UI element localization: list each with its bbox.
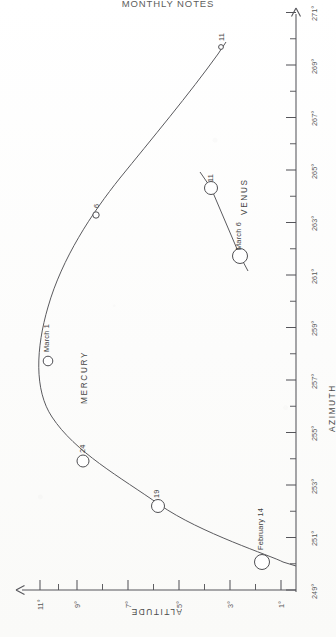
point-label-mercury-24: 24 [78, 444, 87, 453]
marker-mercury-6 [93, 212, 99, 218]
azimuth-tick-253: 253° [310, 479, 319, 494]
marker-mercury-march-1 [43, 356, 53, 366]
azimuth-tick-267: 267° [310, 111, 319, 126]
point-label-mercury-march-1: March 1 [42, 324, 51, 352]
marker-venus-march-6 [233, 249, 248, 264]
azimuth-tick-257: 257° [310, 374, 319, 389]
azimuth-tick-269: 269° [310, 59, 319, 74]
point-label-mercury-19: 19 [152, 489, 161, 498]
point-label-mercury-february-14: February 14 [256, 508, 265, 550]
plot-canvas [0, 0, 336, 637]
point-label-venus-march-6: March 6 [234, 222, 243, 250]
point-label-venus-11: 11 [206, 174, 215, 182]
marker-mercury-19 [152, 500, 165, 513]
series-label-mercury: MERCURY [80, 351, 89, 404]
azimuth-axis-title: AZIMUTH [327, 384, 336, 432]
mercury-track [39, 42, 296, 566]
altitude-axis [16, 580, 296, 595]
marker-mercury-11 [219, 45, 224, 50]
azimuth-tick-249: 249° [310, 584, 319, 599]
azimuth-tick-261: 261° [310, 269, 319, 284]
mercury-curve [39, 42, 283, 562]
azimuth-tick-263: 263° [310, 216, 319, 231]
altitude-tick-11: 11° [36, 599, 45, 610]
point-label-mercury-11: 11 [217, 33, 226, 41]
series-label-venus: VENUS [240, 178, 249, 215]
azimuth-tick-271: 271° [310, 6, 319, 21]
marker-venus-11 [205, 182, 218, 195]
altitude-tick-3: 3° [226, 601, 235, 608]
altitude-axis-title: ALTITUDE [130, 607, 182, 617]
altitude-tick-1: 1° [277, 601, 286, 608]
azimuth-tick-265: 265° [310, 164, 319, 179]
point-label-mercury-6: 6 [92, 204, 101, 208]
marker-mercury-24 [77, 455, 89, 467]
azimuth-axis [286, 8, 301, 592]
azimuth-tick-255: 255° [310, 426, 319, 441]
scanned-chart-page: MONTHLY NOTES [0, 0, 336, 637]
altitude-minor-ticks [59, 584, 256, 590]
azimuth-tick-259: 259° [310, 321, 319, 336]
marker-mercury-february-14 [255, 555, 270, 570]
azimuth-tick-251: 251° [310, 531, 319, 546]
altitude-tick-9: 9° [73, 601, 82, 608]
